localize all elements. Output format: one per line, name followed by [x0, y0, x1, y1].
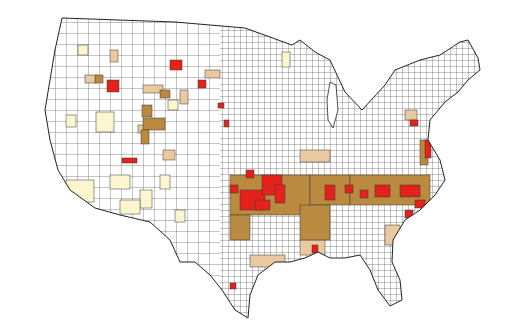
- us-county-choropleth-map: [0, 0, 507, 336]
